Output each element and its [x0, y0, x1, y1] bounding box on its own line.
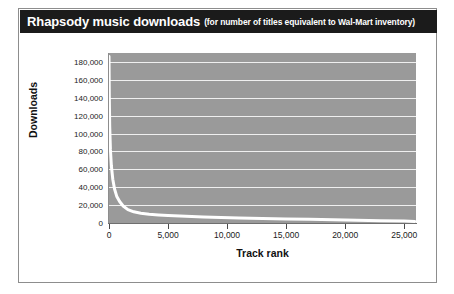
x-axis-tick-mark	[345, 224, 346, 229]
x-axis-tick-mark	[404, 224, 405, 229]
x-axis-tick-label: 5,000	[157, 230, 178, 240]
x-axis-tick-mark	[227, 224, 228, 229]
y-axis-tick-label: 40,000	[47, 183, 103, 192]
x-axis-tick-label: 10,000	[214, 230, 240, 240]
y-axis-tick-label: 180,000	[47, 57, 103, 66]
x-axis-tick-label: 20,000	[332, 230, 358, 240]
y-axis-tick-label: 0	[47, 219, 103, 228]
chart-title-bar: Rhapsody music downloads (for number of …	[20, 10, 437, 33]
y-axis-tick-label: 20,000	[47, 201, 103, 210]
x-axis-tick-mark	[168, 224, 169, 229]
x-axis-tick-label: 15,000	[273, 230, 299, 240]
chart-subtitle: (for number of titles equivalent to Wal-…	[204, 17, 415, 27]
y-axis-tick-labels: 020,00040,00060,00080,000100,000120,0001…	[45, 53, 103, 223]
x-axis-tick-label: 25,000	[391, 230, 417, 240]
y-axis-title: Downloads	[27, 70, 39, 150]
plot-area	[109, 53, 416, 223]
x-axis-tick-mark	[286, 224, 287, 229]
y-axis-tick-label: 120,000	[47, 111, 103, 120]
download-curve	[109, 53, 416, 223]
x-axis-title: Track rank	[109, 247, 416, 259]
y-axis-tick-label: 60,000	[47, 165, 103, 174]
y-axis-tick-label: 100,000	[47, 129, 103, 138]
y-axis-tick-label: 140,000	[47, 93, 103, 102]
y-axis-line	[108, 53, 109, 224]
x-axis-tick-labels: 05,00010,00015,00020,00025,000	[109, 230, 416, 244]
x-axis-tick-label: 0	[107, 230, 112, 240]
y-axis-tick-label: 80,000	[47, 147, 103, 156]
chart-figure: Rhapsody music downloads (for number of …	[18, 8, 437, 283]
page-title: Rhapsody music downloads	[27, 14, 200, 29]
y-axis-tick-label: 160,000	[47, 75, 103, 84]
x-axis-tick-mark	[109, 224, 110, 229]
